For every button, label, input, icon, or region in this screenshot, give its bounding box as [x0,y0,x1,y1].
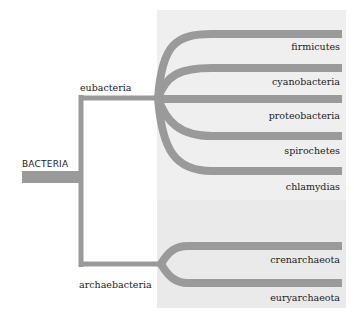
root-label: BACTERIA [22,159,68,170]
leaf-label-spirochetes: spirochetes [284,145,340,156]
leaf-label-cyanobacteria: cyanobacteria [272,76,340,87]
eubacteria-label: eubacteria [80,82,132,93]
leaf-label-chlamydias: chlamydias [286,181,340,192]
leaf-label-proteobacteria: proteobacteria [269,110,340,121]
archaebacteria-label: archaebacteria [79,279,152,290]
leaf-label-firmicutes: firmicutes [291,41,340,52]
leaf-label-crenarchaeota: crenarchaeota [270,254,340,265]
euryarchaeota-branch [161,264,342,283]
leaf-label-euryarchaeota: euryarchaeota [270,292,340,303]
